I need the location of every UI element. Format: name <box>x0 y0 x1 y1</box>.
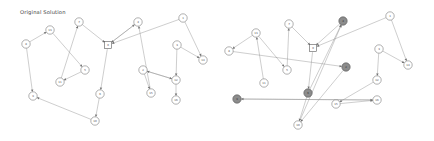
edge-arrowhead <box>232 46 235 48</box>
node-label: 16 <box>375 98 379 102</box>
graph-node[interactable]: 7 <box>75 18 83 26</box>
panel-original-solution: 713891051164131421215160Original Solutio… <box>0 0 217 141</box>
edge-arrowhead <box>376 73 378 75</box>
graph-edge <box>257 37 264 79</box>
graph-edge <box>310 25 341 89</box>
graph-node[interactable]: 3 <box>375 45 383 53</box>
graph-node[interactable]: 14 <box>199 56 207 64</box>
depot-node[interactable]: 0 <box>104 41 111 48</box>
graph-node[interactable]: 16 <box>172 96 180 104</box>
graph-edge <box>61 26 77 78</box>
graph-edge <box>232 35 252 48</box>
edge-arrowhead <box>256 37 258 39</box>
graph-node[interactable]: 12 <box>172 76 180 84</box>
node-label: 2 <box>142 68 144 72</box>
edge-arrowhead <box>175 94 178 96</box>
graph-node[interactable]: 13 <box>252 29 260 37</box>
graph-node[interactable]: 7 <box>285 20 293 28</box>
graph-node[interactable]: 1 <box>179 14 187 22</box>
graph-node[interactable]: 4 <box>134 18 142 26</box>
graph-edge <box>241 99 373 100</box>
edge-arrowhead <box>76 26 78 29</box>
node-label: 7 <box>288 22 290 26</box>
graph-edge <box>383 51 405 63</box>
graph-edge <box>259 36 285 67</box>
depot-node[interactable]: 0 <box>309 44 316 51</box>
solution-comparison-figure: 713891051164131421215160Original Solutio… <box>0 0 434 141</box>
graph-edge <box>147 71 172 79</box>
graph-node[interactable]: 6 <box>96 90 104 98</box>
edge-arrowhead <box>241 98 243 100</box>
graph-edge <box>391 20 406 61</box>
graph-node[interactable]: 1 <box>386 12 394 20</box>
node-label: 5 <box>84 68 86 72</box>
node-label: 15 <box>149 91 153 95</box>
graph-edge <box>377 53 378 76</box>
graph-edge <box>181 47 200 58</box>
graph-node[interactable]: 11 <box>260 79 268 87</box>
graph-node[interactable]: 5 <box>81 66 89 74</box>
node-label: 11 <box>58 80 62 84</box>
graph-node[interactable]: 14 <box>404 61 412 69</box>
node-label: 3 <box>378 47 380 51</box>
node-label: 1 <box>389 14 391 18</box>
panel-modified-solution: 713891051164131421215160 <box>217 0 434 141</box>
graph-edge <box>287 28 289 66</box>
graph-node[interactable]: 2 <box>342 63 350 71</box>
graph-edge <box>101 49 108 90</box>
depot-label: 0 <box>312 46 314 50</box>
graph-node[interactable]: 11 <box>56 78 64 86</box>
edge-arrowhead <box>339 65 341 67</box>
node-label: 10 <box>296 123 300 127</box>
graph-node[interactable]: 8 <box>22 40 30 48</box>
graph-node[interactable]: 15 <box>332 100 340 108</box>
node-label: 13 <box>254 31 258 35</box>
graph-node[interactable]: 10 <box>294 121 302 129</box>
graph-edge <box>112 19 179 43</box>
panel-title: Original Solution <box>20 9 66 16</box>
graph-node[interactable]: 6 <box>304 89 312 97</box>
node-label: 14 <box>406 63 410 67</box>
node-label: 5 <box>286 68 288 72</box>
node-label: 6 <box>99 92 101 96</box>
node-label: 9 <box>32 94 34 98</box>
graph-edge <box>340 82 374 102</box>
graph-edge <box>53 33 82 67</box>
graph-node[interactable]: 10 <box>91 117 99 125</box>
graph-node[interactable]: 4 <box>339 17 347 25</box>
node-label: 9 <box>236 97 238 101</box>
edge-layer <box>27 19 202 119</box>
edge-arrowhead <box>175 73 177 75</box>
graph-edge <box>139 26 150 89</box>
graph-node[interactable]: 12 <box>373 76 381 84</box>
node-label: 6 <box>307 91 309 95</box>
graph-edge <box>176 49 177 76</box>
node-label: 16 <box>174 98 178 102</box>
node-label: 8 <box>228 49 230 53</box>
node-label: 2 <box>345 65 347 69</box>
graph-node[interactable]: 9 <box>233 95 241 103</box>
edge-arrowhead <box>95 114 97 116</box>
graph-edge <box>27 48 33 92</box>
edge-arrowhead <box>307 86 309 88</box>
graph-node[interactable]: 3 <box>173 41 181 49</box>
node-label: 4 <box>137 20 139 24</box>
graph-node[interactable]: 9 <box>29 92 37 100</box>
node-label: 12 <box>375 78 379 82</box>
graph-node[interactable]: 15 <box>147 89 155 97</box>
graph-node[interactable]: 13 <box>46 26 54 34</box>
graph-edge <box>37 98 91 120</box>
graph-node[interactable]: 8 <box>225 47 233 55</box>
edge-arrowhead <box>31 89 33 91</box>
node-label: 13 <box>48 28 52 32</box>
graph-edge <box>340 100 373 103</box>
graph-edge <box>82 25 104 43</box>
graph-node[interactable]: 16 <box>373 96 381 104</box>
graph-edge <box>292 27 310 45</box>
node-label: 12 <box>174 78 178 82</box>
depot-label: 0 <box>107 43 109 47</box>
node-label: 8 <box>25 42 27 46</box>
graph-node[interactable]: 2 <box>139 66 147 74</box>
graph-node[interactable]: 5 <box>283 66 291 74</box>
node-label: 11 <box>262 81 266 85</box>
